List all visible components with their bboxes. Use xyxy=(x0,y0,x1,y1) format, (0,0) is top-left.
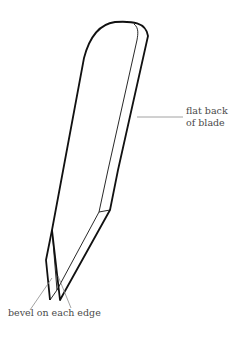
label-bevel: bevel on each edge xyxy=(8,307,101,319)
front-face-right-edge xyxy=(99,24,138,212)
label-flat-back-line2: of blade xyxy=(186,117,228,129)
left-bevel-facet xyxy=(46,230,52,300)
label-flat-back-line1: flat back xyxy=(186,105,228,117)
blade-outline xyxy=(52,22,148,300)
label-flat-back: flat back of blade xyxy=(186,105,228,129)
bevel-inner-edge xyxy=(57,210,110,290)
chisel-diagram xyxy=(0,0,242,342)
